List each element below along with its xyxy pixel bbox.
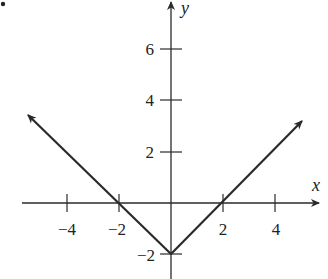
y-axis-label: y	[179, 0, 189, 18]
y-tick-label: 4	[146, 91, 155, 110]
function-left-branch	[28, 115, 171, 254]
x-axis-label: x	[311, 175, 320, 195]
graph: −4 −2 2 4 6 4 2 −2 x y	[0, 0, 328, 279]
x-tick-label: −4	[58, 220, 77, 239]
y-tick-label: 6	[146, 40, 155, 59]
x-tick-label: 4	[272, 220, 281, 239]
function-right-branch	[171, 121, 302, 254]
problem-marker-dot	[1, 2, 5, 6]
x-tick-label: 2	[219, 220, 228, 239]
y-tick-label: −2	[137, 246, 155, 265]
y-tick-label: 2	[146, 143, 155, 162]
x-tick-label: −2	[108, 220, 126, 239]
